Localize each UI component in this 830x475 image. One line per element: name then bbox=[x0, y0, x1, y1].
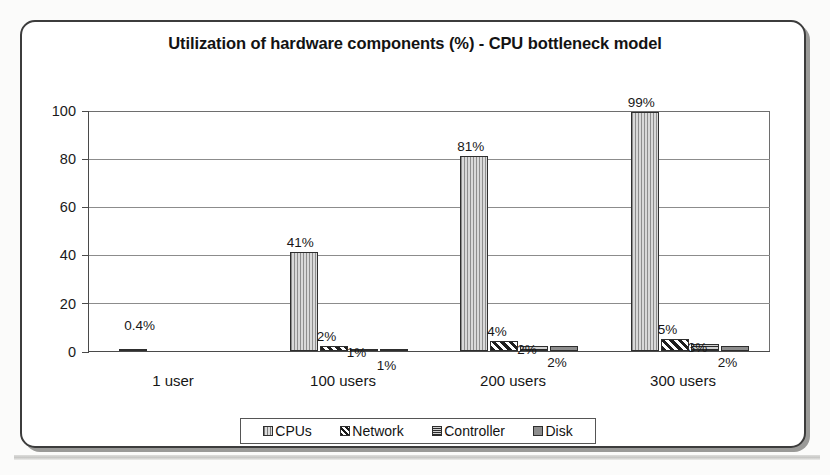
bar-network-200-users bbox=[490, 341, 518, 351]
legend-swatch-cpus-icon bbox=[263, 426, 273, 436]
y-tick-label-40: 40 bbox=[30, 248, 76, 263]
y-tick-label-60: 60 bbox=[30, 200, 76, 215]
legend-label-disk: Disk bbox=[545, 424, 572, 438]
chart-screenshot: Utilization of hardware components (%) -… bbox=[0, 0, 830, 475]
value-label-disk-100-users: 1% bbox=[377, 359, 397, 373]
chart-title: Utilization of hardware components (%) -… bbox=[0, 34, 830, 53]
y-tick-label-100: 100 bbox=[30, 104, 76, 119]
value-label-cpus-100-users: 41% bbox=[287, 236, 314, 250]
value-label-cpus-1-user: 0.4% bbox=[124, 319, 155, 333]
bar-cpus-1-user bbox=[119, 349, 147, 352]
chart-legend: CPUs Network Controller Disk bbox=[240, 418, 596, 444]
x-category-200-users: 200 users bbox=[428, 372, 598, 389]
y-tick-label-0: 0 bbox=[30, 345, 76, 360]
bar-disk-300-users bbox=[721, 346, 749, 351]
x-category-300-users: 300 users bbox=[598, 372, 768, 389]
legend-item-cpus: CPUs bbox=[263, 424, 312, 438]
legend-item-controller: Controller bbox=[432, 424, 505, 438]
x-category-1-user: 1 user bbox=[88, 372, 258, 389]
value-label-cpus-200-users: 81% bbox=[457, 140, 484, 154]
legend-item-disk: Disk bbox=[533, 424, 572, 438]
legend-swatch-disk-icon bbox=[533, 426, 543, 436]
value-label-disk-200-users: 2% bbox=[547, 356, 567, 370]
value-label-network-300-users: 5% bbox=[658, 323, 678, 337]
scan-artifact bbox=[14, 455, 820, 460]
bar-network-100-users bbox=[320, 346, 348, 351]
legend-swatch-network-icon bbox=[340, 426, 350, 436]
bar-disk-100-users bbox=[380, 349, 408, 352]
value-label-controller-100-users: 1% bbox=[347, 346, 367, 360]
plot-area bbox=[88, 111, 770, 352]
value-label-controller-300-users: 3% bbox=[688, 341, 708, 355]
legend-label-network: Network bbox=[352, 424, 403, 438]
x-category-100-users: 100 users bbox=[258, 372, 428, 389]
value-label-disk-300-users: 2% bbox=[718, 356, 738, 370]
legend-label-cpus: CPUs bbox=[275, 424, 312, 438]
bar-cpus-100-users bbox=[290, 252, 318, 351]
value-label-controller-200-users: 2% bbox=[517, 343, 537, 357]
value-label-network-100-users: 2% bbox=[317, 330, 337, 344]
bar-cpus-200-users bbox=[460, 156, 488, 351]
legend-label-controller: Controller bbox=[444, 424, 505, 438]
y-tick-label-80: 80 bbox=[30, 152, 76, 167]
bar-network-300-users bbox=[661, 339, 689, 351]
legend-swatch-controller-icon bbox=[432, 426, 442, 436]
bar-disk-200-users bbox=[550, 346, 578, 351]
value-label-cpus-300-users: 99% bbox=[628, 96, 655, 110]
value-label-network-200-users: 4% bbox=[487, 325, 507, 339]
legend-item-network: Network bbox=[340, 424, 403, 438]
y-tick-label-20: 20 bbox=[30, 297, 76, 312]
y-tick-0 bbox=[82, 352, 89, 353]
bar-cpus-300-users bbox=[631, 112, 659, 351]
